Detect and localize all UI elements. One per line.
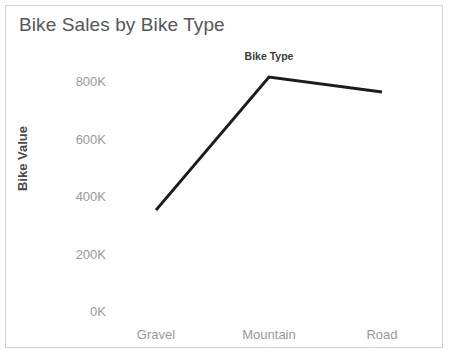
- line-chart-plot: [6, 6, 444, 349]
- visualization-frame: Bike Sales by Bike Type Bike Type Bike V…: [5, 5, 443, 348]
- data-series-line: [156, 77, 382, 210]
